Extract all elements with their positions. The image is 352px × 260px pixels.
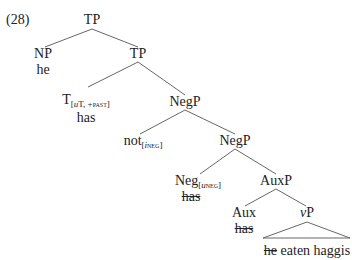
edge-negp2-auxp [235,149,276,174]
edge-tp-np [45,29,92,47]
vp-yield: he eaten haggis [264,244,350,258]
word-he: he [36,63,49,77]
node-aux: Aux [232,206,256,220]
not-label: not [124,133,142,148]
tree-edges [0,0,352,260]
neg-features: [uneg] [198,180,221,190]
node-tp2: TP [130,47,146,61]
node-np: NP [34,47,52,61]
node-t: T[uT, +past] [62,93,110,109]
neg-label: Neg [175,173,198,188]
vp-triangle [263,222,350,238]
word-has-neg: has [182,190,201,204]
word-has-aux: has [235,222,254,236]
node-negp2: NegP [219,134,250,148]
example-number: (28) [6,13,29,27]
edge-tp2-negp [138,62,185,95]
t-features: [uT, +past] [71,99,110,109]
edge-negp-negp2 [185,110,235,134]
edge-tp2-t [88,62,138,87]
node-tp-root: TP [84,13,100,27]
edge-auxp-vp [276,189,306,206]
not-features: [ineg] [142,140,163,150]
edge-negp2-neg [200,149,235,174]
node-auxp: AuxP [260,174,292,188]
edge-auxp-aux [245,189,276,206]
edge-negp-not [140,110,185,134]
edge-tp-tp2 [92,29,138,47]
word-has-t: has [77,111,96,125]
node-negp1: NegP [169,95,200,109]
t-label: T [62,92,71,107]
node-not: not[ineg] [124,134,163,150]
node-vp: vP [300,206,314,220]
node-neg: Neg[uneg] [175,174,221,190]
